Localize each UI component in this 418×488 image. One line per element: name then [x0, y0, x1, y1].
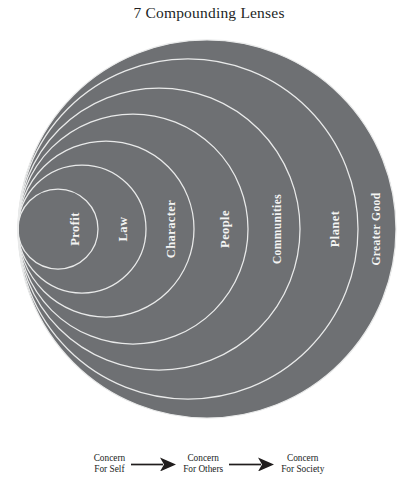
legend-item-self-line2: For Self: [94, 464, 126, 475]
lens-label-law: Law: [116, 217, 130, 242]
lens-label-planet: Planet: [328, 210, 342, 247]
legend-item-society-line1: Concern: [281, 453, 324, 464]
lens-label-character: Character: [164, 200, 178, 258]
legend-item-self-line1: Concern: [94, 453, 126, 464]
legend-item-society-line2: For Society: [281, 464, 324, 475]
right-arrow-icon: [131, 457, 177, 471]
lens-label-profit: Profit: [68, 212, 82, 246]
legend-item-self: Concern For Self: [94, 453, 126, 476]
legend-item-others-line1: Concern: [183, 453, 223, 464]
legend: Concern For Self Concern For Others Conc…: [0, 444, 418, 484]
legend-item-society: Concern For Society: [281, 453, 324, 476]
right-arrow-icon-2: [229, 457, 275, 471]
lens-label-greater-good: Greater Good: [370, 192, 382, 265]
legend-item-others-line2: For Others: [183, 464, 223, 475]
page-title: 7 Compounding Lenses: [0, 3, 418, 23]
lens-label-communities: Communities: [271, 194, 283, 264]
lens-circles-svg: ProfitLawCharacterPeopleCommunitiesPlane…: [0, 28, 418, 432]
compounding-lenses-diagram: ProfitLawCharacterPeopleCommunitiesPlane…: [0, 28, 418, 432]
legend-item-others: Concern For Others: [183, 453, 223, 476]
lens-label-people: People: [218, 210, 232, 248]
